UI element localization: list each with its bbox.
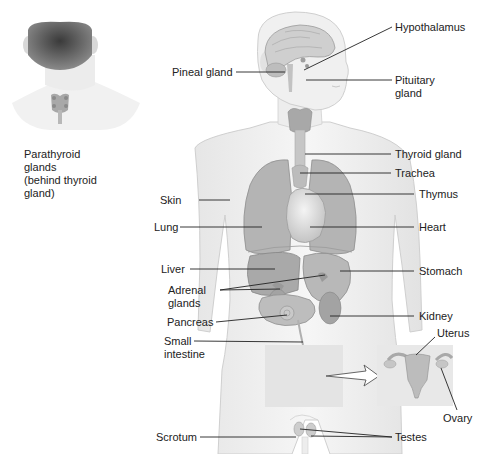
label-adrenal-glands: Adrenal glands: [168, 284, 206, 310]
label-line: gland): [24, 187, 124, 200]
label-line: intestine: [164, 348, 205, 361]
label-small-intestine: Small intestine: [164, 335, 205, 361]
label-scrotum: Scrotum: [156, 431, 197, 444]
female-reproductive-inset: [377, 345, 453, 406]
label-stomach: Stomach: [419, 265, 462, 278]
label-line: Adrenal: [168, 284, 206, 297]
label-ovary: Ovary: [443, 412, 472, 425]
label-trachea: Trachea: [395, 167, 435, 180]
label-pituitary-gland: Pituitary gland: [395, 74, 435, 100]
label-pineal-gland: Pineal gland: [172, 66, 233, 79]
label-kidney: Kidney: [419, 310, 453, 323]
label-uterus: Uterus: [437, 327, 469, 340]
label-pancreas: Pancreas: [167, 316, 213, 329]
label-hypothalamus: Hypothalamus: [395, 21, 465, 34]
label-line: gland: [395, 87, 435, 100]
back-view-inset: [12, 22, 140, 130]
label-thyroid-gland: Thyroid gland: [395, 148, 462, 161]
label-line: (behind thyroid: [24, 174, 124, 187]
label-lung: Lung: [154, 221, 178, 234]
anatomy-diagram: Parathyroid glands (behind thyroid gland…: [0, 0, 495, 454]
label-skin: Skin: [160, 194, 181, 207]
label-parathyroid-glands: Parathyroid glands (behind thyroid gland…: [24, 148, 124, 200]
label-line: Parathyroid: [24, 148, 124, 161]
label-line: Small: [164, 335, 205, 348]
label-liver: Liver: [161, 263, 185, 276]
label-line: glands: [24, 161, 124, 174]
label-heart: Heart: [419, 221, 446, 234]
label-testes: Testes: [395, 431, 427, 444]
label-line: glands: [168, 297, 206, 310]
label-thymus: Thymus: [419, 188, 458, 201]
label-line: Pituitary: [395, 74, 435, 87]
